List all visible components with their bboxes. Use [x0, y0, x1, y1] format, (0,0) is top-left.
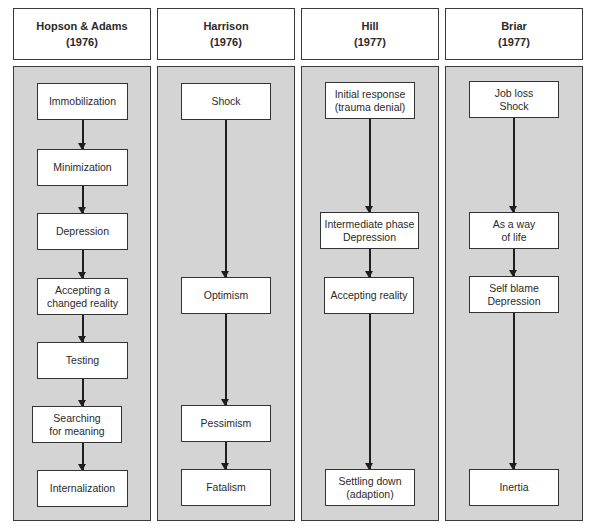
- stage-box: Internalization: [37, 470, 128, 507]
- stage-box: Depression: [37, 213, 128, 250]
- stage-box: Pessimism: [181, 405, 271, 442]
- stage-box: Searching for meaning: [32, 406, 122, 443]
- stage-box: Accepting a changed reality: [37, 278, 128, 315]
- column-year: (1977): [354, 34, 386, 50]
- arrow-down-icon: [82, 315, 84, 342]
- arrow-down-icon: [225, 120, 227, 277]
- column-header-hill: Hill (1977): [301, 8, 439, 60]
- arrow-down-icon: [513, 313, 515, 469]
- column-header-harrison: Harrison (1976): [157, 8, 295, 60]
- column-panel-hill: Initial response (trauma denial) Interme…: [301, 66, 439, 521]
- stage-box: Fatalism: [181, 469, 271, 506]
- stage-box: Self blame Depression: [469, 276, 559, 313]
- column-year: (1976): [66, 34, 98, 50]
- arrow-down-icon: [225, 442, 227, 469]
- arrow-down-icon: [82, 186, 84, 213]
- stage-box: Job loss Shock: [469, 81, 559, 118]
- stage-box: Minimization: [37, 149, 128, 186]
- column-author: Hopson & Adams: [36, 18, 127, 34]
- stage-box: Intermediate phase Depression: [320, 212, 419, 249]
- column-header-briar: Briar (1977): [445, 8, 583, 60]
- stage-box: Immobilization: [37, 83, 128, 120]
- stage-box: Inertia: [469, 469, 559, 506]
- column-year: (1976): [210, 34, 242, 50]
- stage-box: As a way of life: [469, 212, 559, 249]
- column-header-hopson-adams: Hopson & Adams (1976): [13, 8, 151, 60]
- arrow-down-icon: [369, 119, 371, 212]
- column-author: Hill: [361, 18, 378, 34]
- arrow-down-icon: [513, 118, 515, 212]
- column-panel-briar: Job loss Shock As a way of life Self bla…: [445, 66, 583, 521]
- arrow-down-icon: [82, 379, 84, 406]
- column-panel-hopson-adams: Immobilization Minimization Depression A…: [13, 66, 151, 521]
- column-year: (1977): [498, 34, 530, 50]
- arrow-down-icon: [513, 249, 515, 276]
- column-author: Briar: [501, 18, 527, 34]
- arrow-down-icon: [82, 443, 84, 470]
- stage-box: Initial response (trauma denial): [325, 82, 415, 119]
- arrow-down-icon: [82, 120, 84, 149]
- column-panel-harrison: Shock Optimism Pessimism Fatalism: [157, 66, 295, 521]
- stage-box: Accepting reality: [324, 277, 414, 314]
- arrow-down-icon: [369, 249, 371, 277]
- stage-box: Shock: [181, 83, 271, 120]
- arrow-down-icon: [82, 250, 84, 278]
- arrow-down-icon: [225, 314, 227, 405]
- stage-box: Optimism: [181, 277, 271, 314]
- stage-box: Testing: [37, 342, 128, 379]
- column-author: Harrison: [203, 18, 248, 34]
- arrow-down-icon: [369, 314, 371, 469]
- stage-box: Settling down (adaption): [325, 469, 415, 506]
